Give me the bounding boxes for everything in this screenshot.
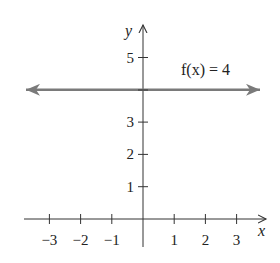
x-tick-label: −1 bbox=[104, 232, 120, 248]
y-axis-ticks: 1235 bbox=[127, 50, 149, 195]
x-tick-label: 3 bbox=[233, 232, 241, 248]
y-tick-label: 1 bbox=[127, 179, 135, 195]
x-tick-label: 1 bbox=[170, 232, 178, 248]
y-tick-label: 5 bbox=[127, 50, 135, 66]
x-tick-label: −3 bbox=[41, 232, 57, 248]
coordinate-plane: −3−2−1123 1235 x y f(x) = 4 bbox=[0, 0, 280, 263]
y-tick-label: 3 bbox=[127, 114, 135, 130]
x-axis-label: x bbox=[257, 222, 265, 239]
x-tick-label: 2 bbox=[202, 232, 210, 248]
x-tick-label: −2 bbox=[73, 232, 89, 248]
y-tick-label: 2 bbox=[127, 146, 135, 162]
y-axis-label: y bbox=[123, 22, 133, 40]
function-label: f(x) = 4 bbox=[181, 61, 230, 79]
